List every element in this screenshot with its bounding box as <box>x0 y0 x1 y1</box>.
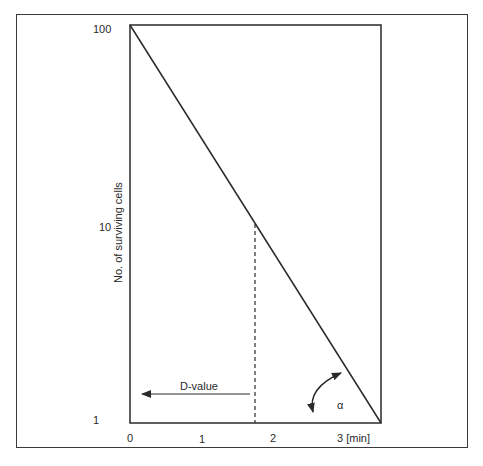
y-tick-1: 1 <box>93 414 99 426</box>
y-tick-100: 100 <box>93 23 111 35</box>
alpha-label: α <box>337 399 343 411</box>
x-tick-3-min: 3 [min] <box>337 432 370 444</box>
d-value-label: D-value <box>180 380 218 392</box>
x-tick-1: 1 <box>199 433 205 445</box>
y-axis-label: No. of surviving cells <box>112 182 124 283</box>
x-tick-0: 0 <box>127 432 133 444</box>
survival-chart <box>0 0 483 466</box>
x-tick-2: 2 <box>270 432 276 444</box>
y-tick-10: 10 <box>99 221 111 233</box>
